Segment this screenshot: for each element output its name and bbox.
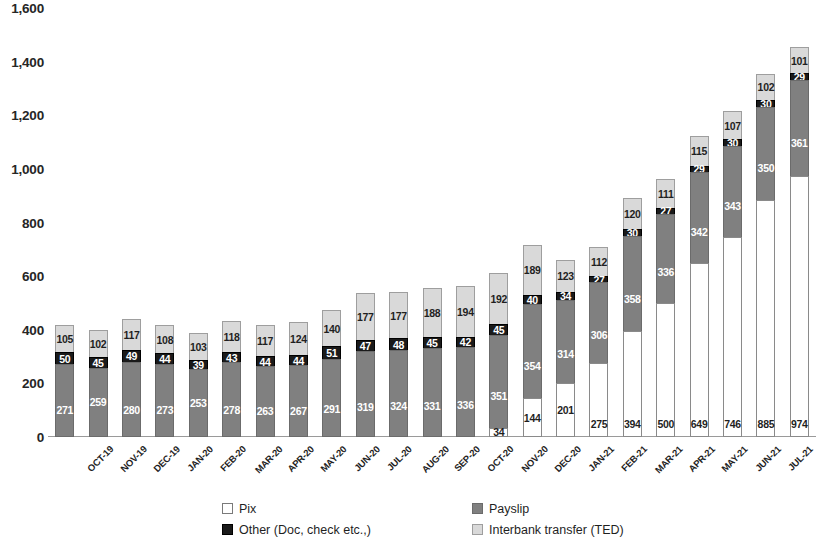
bar-segment[interactable]: 278 — [222, 362, 241, 437]
bar-segment[interactable]: 350 — [756, 107, 775, 201]
bar-value-label: 885 — [758, 418, 775, 430]
bar-column[interactable]: 11843278 — [222, 321, 241, 436]
bar-column[interactable]: 17748324 — [389, 292, 408, 436]
bar-segment[interactable]: 34 — [489, 428, 508, 437]
x-axis-tick: OCT-20 — [485, 443, 515, 473]
bar-segment[interactable]: 306 — [589, 282, 608, 364]
bar-segment[interactable]: 105 — [55, 325, 74, 353]
bar-value-label: 111 — [658, 188, 673, 200]
x-axis-tick: JAN-21 — [585, 443, 615, 473]
bar-column[interactable]: 11529342649 — [690, 136, 709, 436]
bar-segment[interactable]: 188 — [423, 288, 442, 338]
bar-segment[interactable]: 885 — [756, 200, 775, 437]
bar-segment[interactable]: 273 — [155, 364, 174, 437]
bar-segment[interactable]: 649 — [690, 263, 709, 437]
legend-item[interactable]: Pix — [222, 498, 472, 519]
bar-segment[interactable]: 144 — [523, 398, 542, 437]
bar-segment[interactable]: 123 — [556, 260, 575, 293]
bar-segment[interactable]: 336 — [656, 214, 675, 304]
bar-column[interactable]: 10129361974 — [790, 47, 809, 436]
bar-segment[interactable]: 253 — [189, 369, 208, 437]
bar-column[interactable]: 10550271 — [55, 325, 74, 436]
bar-segment[interactable]: 746 — [723, 237, 742, 437]
y-axis-tick: 0 — [37, 430, 44, 445]
bar-segment[interactable]: 974 — [790, 176, 809, 437]
legend-item[interactable]: Other (Doc, check etc.,) — [222, 519, 472, 540]
bar-segment[interactable]: 111 — [656, 179, 675, 209]
bar-segment[interactable]: 117 — [256, 325, 275, 356]
bar-column[interactable]: 11744263 — [256, 325, 275, 436]
bar-segment[interactable]: 140 — [322, 310, 341, 348]
bar-segment[interactable]: 331 — [423, 348, 442, 437]
bar-column[interactable]: 18845331 — [423, 288, 442, 436]
legend-item[interactable]: Payslip — [472, 498, 722, 519]
bar-segment[interactable]: 358 — [623, 236, 642, 332]
bar-segment[interactable]: 117 — [122, 319, 141, 350]
bar-column[interactable]: 10339253 — [189, 333, 208, 436]
bar-segment[interactable]: 324 — [389, 350, 408, 437]
bar-column[interactable]: 17747319 — [356, 293, 375, 436]
bar-column[interactable]: 10245259 — [89, 330, 108, 436]
bar-column[interactable]: 12030358394 — [623, 198, 642, 436]
legend-item[interactable]: Interbank transfer (TED) — [472, 519, 722, 540]
bar-segment[interactable]: 259 — [89, 368, 108, 437]
bar-segment[interactable]: 361 — [790, 80, 809, 177]
y-axis: 02004006008001,0001,2001,4001,600 — [0, 0, 48, 440]
bar-segment[interactable]: 201 — [556, 383, 575, 437]
bar-segment[interactable]: 275 — [589, 363, 608, 437]
bar-segment[interactable]: 101 — [790, 47, 809, 74]
bar-value-label: 343 — [724, 200, 741, 212]
bar-segment[interactable]: 354 — [523, 304, 542, 399]
bar-segment[interactable]: 51 — [322, 346, 341, 360]
bar-segment[interactable]: 118 — [222, 321, 241, 353]
bar-column[interactable]: 10844273 — [155, 325, 174, 436]
bar-column[interactable]: 1924535134 — [489, 273, 508, 436]
bar-segment[interactable]: 177 — [356, 293, 375, 340]
bar-segment[interactable]: 108 — [155, 325, 174, 354]
bar-column[interactable]: 11227306275 — [589, 247, 608, 436]
x-axis-tick: JUN-21 — [752, 443, 782, 473]
bar-segment[interactable]: 107 — [723, 111, 742, 140]
bar-segment[interactable]: 103 — [189, 333, 208, 361]
bar-segment[interactable]: 394 — [623, 331, 642, 437]
bar-segment[interactable]: 192 — [489, 273, 508, 324]
bar-segment[interactable]: 194 — [456, 286, 475, 338]
bar-segment[interactable]: 189 — [523, 245, 542, 296]
bar-column[interactable]: 10730343746 — [723, 111, 742, 436]
chart-legend: PixPayslipOther (Doc, check etc.,)Interb… — [0, 498, 816, 540]
bar-segment[interactable]: 267 — [289, 365, 308, 437]
bar-segment[interactable]: 124 — [289, 322, 308, 355]
bar-segment[interactable]: 271 — [55, 364, 74, 437]
bar-segment[interactable]: 314 — [556, 300, 575, 384]
bar-segment[interactable]: 112 — [589, 247, 608, 277]
bar-value-label: 144 — [524, 412, 541, 424]
bar-segment[interactable]: 319 — [356, 351, 375, 437]
bar-segment[interactable]: 115 — [690, 136, 709, 167]
bar-value-label: 271 — [56, 404, 73, 416]
bar-segment[interactable]: 336 — [456, 347, 475, 437]
bar-column[interactable]: 19442336 — [456, 286, 475, 436]
bar-segment[interactable]: 120 — [623, 198, 642, 230]
bar-value-label: 314 — [557, 348, 574, 360]
bar-column[interactable]: 14051291 — [322, 310, 341, 436]
bar-segment[interactable]: 102 — [89, 330, 108, 357]
bar-column[interactable]: 12334314201 — [556, 260, 575, 436]
bar-value-label: 336 — [657, 266, 674, 278]
bar-column[interactable]: 11749280 — [122, 319, 141, 436]
bar-segment[interactable]: 263 — [256, 366, 275, 437]
bar-value-label: 306 — [591, 329, 608, 341]
bar-segment[interactable]: 102 — [756, 74, 775, 101]
bar-segment[interactable]: 500 — [656, 303, 675, 437]
bar-column[interactable]: 10230350885 — [756, 74, 775, 437]
bar-segment[interactable]: 351 — [489, 335, 508, 429]
bar-column[interactable]: 12444267 — [289, 322, 308, 436]
bar-segment[interactable]: 177 — [389, 292, 408, 339]
bar-segment[interactable]: 342 — [690, 172, 709, 264]
bar-column[interactable]: 18940354144 — [523, 245, 542, 436]
bar-segment[interactable]: 343 — [723, 146, 742, 238]
bar-segment[interactable]: 280 — [122, 362, 141, 437]
bar-segment[interactable]: 291 — [322, 359, 341, 437]
x-axis-tick: FEB-21 — [619, 443, 649, 473]
bar-column[interactable]: 11127336500 — [656, 179, 675, 436]
bar-segment[interactable]: 50 — [55, 352, 74, 365]
